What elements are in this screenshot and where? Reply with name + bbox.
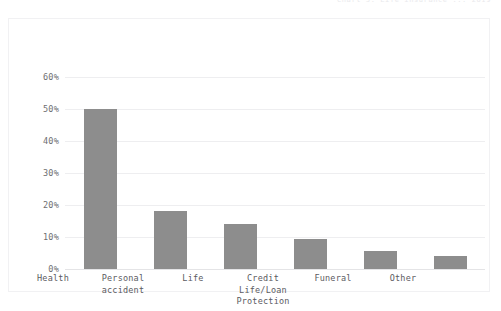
chart-figure-frame: 0%10%20%30%40%50%60% HealthPersonal acci… bbox=[8, 18, 490, 292]
gridline-40 bbox=[65, 141, 485, 142]
y-axis-tick-labels: 0%10%20%30%40%50%60% bbox=[17, 77, 59, 269]
y-tick-label: 10% bbox=[43, 232, 59, 242]
gridline-20 bbox=[65, 205, 485, 206]
bar[interactable] bbox=[294, 239, 327, 269]
gridline-30 bbox=[65, 173, 485, 174]
x-tick-label: Other bbox=[356, 273, 450, 285]
chart-plot-area bbox=[65, 77, 485, 269]
y-tick-label: 30% bbox=[43, 168, 59, 178]
page-running-header: Chart 3: Life insurance ... 2019 bbox=[337, 0, 491, 4]
gridline-10 bbox=[65, 237, 485, 238]
y-tick-label: 40% bbox=[43, 136, 59, 146]
y-tick-label: 50% bbox=[43, 104, 59, 114]
bar[interactable] bbox=[224, 224, 257, 269]
gridline-50 bbox=[65, 109, 485, 110]
y-tick-label: 60% bbox=[43, 72, 59, 82]
bar[interactable] bbox=[364, 251, 397, 269]
bar[interactable] bbox=[84, 109, 117, 269]
x-axis-tick-labels: HealthPersonal accidentLifeCredit Life/L… bbox=[65, 273, 485, 311]
bar[interactable] bbox=[434, 256, 467, 269]
gridline-60 bbox=[65, 77, 485, 78]
bar[interactable] bbox=[154, 211, 187, 269]
gridline-0 bbox=[65, 269, 485, 270]
y-tick-label: 20% bbox=[43, 200, 59, 210]
